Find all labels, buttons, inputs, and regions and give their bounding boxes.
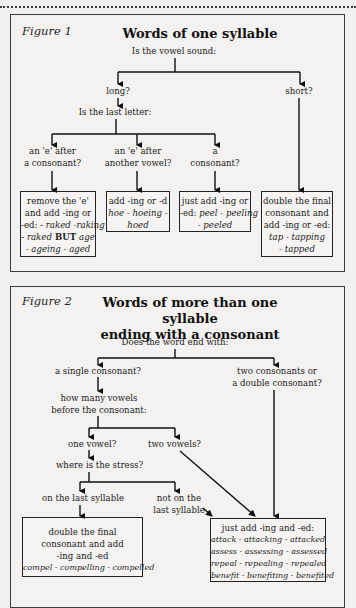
flowchart-connectors bbox=[0, 0, 356, 589]
